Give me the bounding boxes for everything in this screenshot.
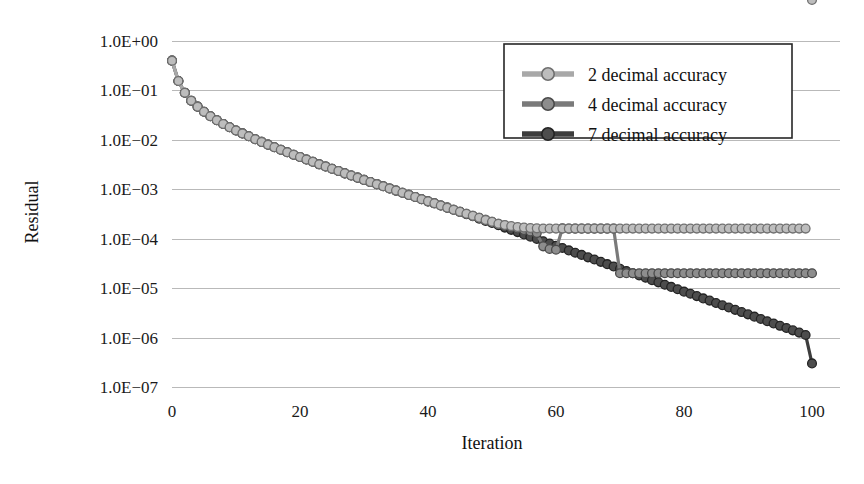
legend-marker-swatch [542, 128, 554, 140]
legend-item-label: 4 decimal accuracy [588, 95, 727, 115]
data-point-marker [808, 0, 817, 4]
data-point-marker [180, 88, 189, 97]
legend-item-label: 7 decimal accuracy [588, 125, 727, 145]
y-tick-label: 1.0E−01 [100, 81, 158, 100]
legend-item-label: 2 decimal accuracy [588, 65, 727, 85]
data-point-marker [808, 269, 817, 278]
x-tick-label: 60 [548, 402, 565, 421]
legend-entries: 2 decimal accuracy4 decimal accuracy7 de… [522, 65, 727, 145]
chart-legend: 2 decimal accuracy4 decimal accuracy7 de… [504, 44, 792, 145]
residual-convergence-chart: 1.0E+001.0E−011.0E−021.0E−031.0E−041.0E−… [0, 0, 864, 484]
legend-marker-swatch [542, 68, 554, 80]
x-tick-label: 0 [168, 402, 177, 421]
data-point-marker [174, 77, 183, 86]
y-axis-tick-labels: 1.0E+001.0E−011.0E−021.0E−031.0E−041.0E−… [100, 32, 159, 397]
y-tick-label: 1.0E−06 [100, 329, 158, 348]
x-tick-label: 20 [292, 402, 309, 421]
x-tick-label: 80 [676, 402, 693, 421]
chart-figure: 1.0E+001.0E−011.0E−021.0E−031.0E−041.0E−… [0, 0, 864, 484]
data-point-marker [801, 331, 810, 340]
data-point-marker [801, 224, 810, 233]
y-tick-label: 1.0E−04 [100, 230, 159, 249]
y-tick-label: 1.0E−07 [100, 378, 159, 397]
x-axis-title: Iteration [462, 433, 523, 453]
x-tick-label: 100 [799, 402, 825, 421]
y-tick-label: 1.0E+00 [100, 32, 158, 51]
x-tick-label: 40 [420, 402, 437, 421]
legend-box [504, 44, 792, 138]
data-point-marker [552, 245, 561, 254]
y-tick-label: 1.0E−05 [100, 279, 158, 298]
x-axis-tick-labels: 020406080100 [168, 402, 825, 421]
y-axis-title: Residual [22, 181, 42, 244]
data-point-marker [808, 359, 817, 368]
y-tick-label: 1.0E−02 [100, 131, 158, 150]
legend-marker-swatch [542, 98, 554, 110]
y-tick-label: 1.0E−03 [100, 180, 158, 199]
data-point-marker [168, 56, 177, 65]
